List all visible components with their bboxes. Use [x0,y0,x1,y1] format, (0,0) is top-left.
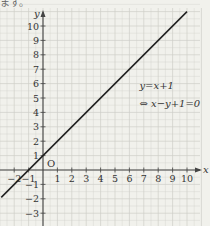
y-axis-label: y [33,8,40,19]
y-tick-label: −2 [25,193,39,204]
y-axis-arrow-icon [41,10,46,17]
x-tick-label: 2 [69,173,75,184]
x-tick-label: 1 [54,173,60,184]
y-tick-label: 2 [33,136,39,147]
x-tick-label: 8 [155,173,161,184]
x-axis-arrow-icon [195,168,202,173]
x-tick-label: 6 [126,173,132,184]
line-graph: −2−112345678910−3−2−112345678910xyO y=x+… [0,0,210,226]
equation-annotation: ⇔ x−y+1=0 [139,98,200,109]
y-tick-label: 8 [33,49,39,60]
x-tick-label: 7 [141,173,147,184]
grid-lines [0,0,201,226]
y-tick-label: 6 [33,78,39,89]
y-tick-label: −3 [25,208,39,219]
equation-annotation: y=x+1 [138,80,173,91]
x-tick-label: 10 [181,173,193,184]
y-tick-label: −1 [25,179,39,190]
x-tick-label: 9 [170,173,176,184]
y-tick-label: 7 [33,64,39,75]
x-tick-label: 5 [112,173,118,184]
y-tick-label: 4 [33,107,39,118]
annotations: y=x+1⇔ x−y+1=0 [138,80,200,108]
y-tick-label: 10 [27,21,39,32]
y-tick-label: 3 [33,121,39,132]
x-tick-label: 4 [98,173,104,184]
x-axis-label: x [203,164,209,175]
x-tick-label: 3 [83,173,89,184]
origin-label: O [47,158,55,169]
tick-labels: −2−112345678910−3−2−112345678910xyO [7,8,209,219]
y-tick-label: 9 [33,35,39,46]
y-tick-label: 5 [33,93,39,104]
